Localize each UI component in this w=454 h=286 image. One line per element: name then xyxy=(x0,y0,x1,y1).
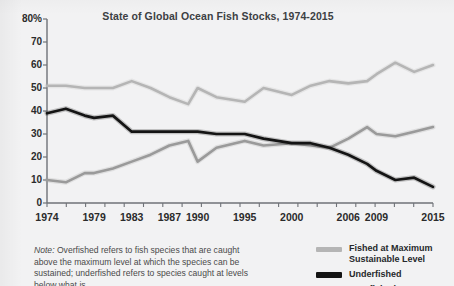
y-axis-label: 0 xyxy=(8,197,42,208)
y-axis-label: 10 xyxy=(8,174,42,185)
x-axis-label: 1974 xyxy=(25,211,69,223)
legend-item: Fished at MaximumSustainable Level xyxy=(316,243,454,265)
legend-item: Underfished xyxy=(316,269,454,280)
note-prefix: Note: xyxy=(34,245,55,255)
legend-label: Fished at MaximumSustainable Level xyxy=(349,243,433,265)
y-axis-label: 50 xyxy=(8,82,42,93)
chart-note: Note: Overfished refers to fish species … xyxy=(34,245,259,286)
chart-screenshot: State of Global Ocean Fish Stocks, 1974-… xyxy=(0,0,454,286)
y-axis-label: 80% xyxy=(2,13,42,24)
chart-legend: Fished at MaximumSustainable LevelUnderf… xyxy=(316,243,454,286)
note-body: Overfished refers to fish species that a… xyxy=(34,245,248,286)
legend-label-line2: Sustainable Level xyxy=(349,254,425,264)
x-axis-label: 1995 xyxy=(223,211,267,223)
x-axis-label: 2015 xyxy=(411,211,454,223)
x-axis-label: 2000 xyxy=(270,211,314,223)
series-line-underfished xyxy=(47,109,433,187)
series-line-fished-at-maximum-sustainable-level xyxy=(47,63,433,104)
x-axis-label: 1990 xyxy=(176,211,220,223)
y-axis-label: 70 xyxy=(8,36,42,47)
y-axis-label: 30 xyxy=(8,128,42,139)
series-blur-1 xyxy=(47,109,433,187)
legend-label: Underfished xyxy=(349,269,402,280)
y-axis-label: 20 xyxy=(8,151,42,162)
legend-swatch-icon xyxy=(316,272,342,278)
series-blur-0 xyxy=(47,63,433,104)
x-axis-label: 2009 xyxy=(355,211,399,223)
y-axis-label: 60 xyxy=(8,59,42,70)
legend-swatch-icon xyxy=(316,247,342,252)
y-axis-label: 40 xyxy=(8,105,42,116)
